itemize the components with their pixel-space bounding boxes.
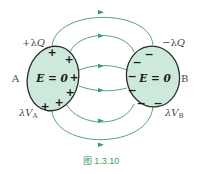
- conductor-b-potential-label: λVB: [164, 107, 184, 120]
- plus-charge-icon: +: [40, 100, 49, 113]
- minus-charge-icon: −: [136, 97, 145, 110]
- plus-charge-icon: +: [65, 86, 74, 99]
- minus-charge-icon: −: [127, 70, 136, 83]
- arrow-icon: [98, 34, 104, 39]
- minus-charge-icon: −: [144, 48, 153, 61]
- plus-charge-icon: +: [47, 46, 56, 59]
- conductor-a-potential-label: λVA: [18, 107, 39, 120]
- conductor-b-charge-label: −λQ: [162, 37, 185, 48]
- conductor-a-name: A: [11, 73, 20, 84]
- arrow-icon: [98, 64, 104, 69]
- minus-charge-icon: −: [132, 56, 141, 69]
- conductor-b-name: B: [181, 73, 188, 84]
- conductor-a: + + + + + + E = 0: [21, 41, 84, 115]
- conductor-b: − − − − − − E = 0: [123, 43, 184, 111]
- conductor-field-diagram: + + + + + + E = 0 − − − − − − E = 0 A +λ…: [0, 0, 199, 174]
- figure-caption: 图 1.3.10: [83, 156, 120, 166]
- minus-charge-icon: −: [127, 84, 136, 97]
- conductor-a-field-label: E = 0: [35, 72, 68, 84]
- field-line-2: [70, 36, 134, 53]
- plus-charge-icon: +: [54, 96, 63, 109]
- plus-charge-icon: +: [69, 71, 78, 84]
- field-line-6: [52, 106, 153, 140]
- conductor-b-field-label: E = 0: [138, 72, 171, 84]
- arrow-icon: [98, 88, 104, 93]
- minus-charge-icon: −: [153, 97, 162, 110]
- arrow-icon: [98, 10, 104, 15]
- arrow-icon: [98, 143, 104, 148]
- conductor-a-charge-label: +λQ: [22, 37, 45, 48]
- field-line-1: [52, 17, 153, 46]
- plus-charge-icon: +: [64, 53, 73, 66]
